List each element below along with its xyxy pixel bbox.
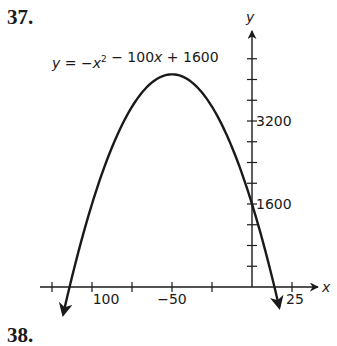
x-tick-label: 100 [93,291,120,307]
x-tick-label: 25 [286,291,304,307]
y-axis-label: y [245,9,255,25]
x-tick-label: −50 [157,291,187,307]
parabola-curve [63,74,279,314]
y-tick-label: 3200 [256,113,292,129]
x-axis-label: x [321,279,331,295]
y-tick-label: 1600 [256,196,292,212]
axis-ticks [52,59,292,292]
equation-label: y = −x2 − 100x + 1600 [51,49,219,71]
